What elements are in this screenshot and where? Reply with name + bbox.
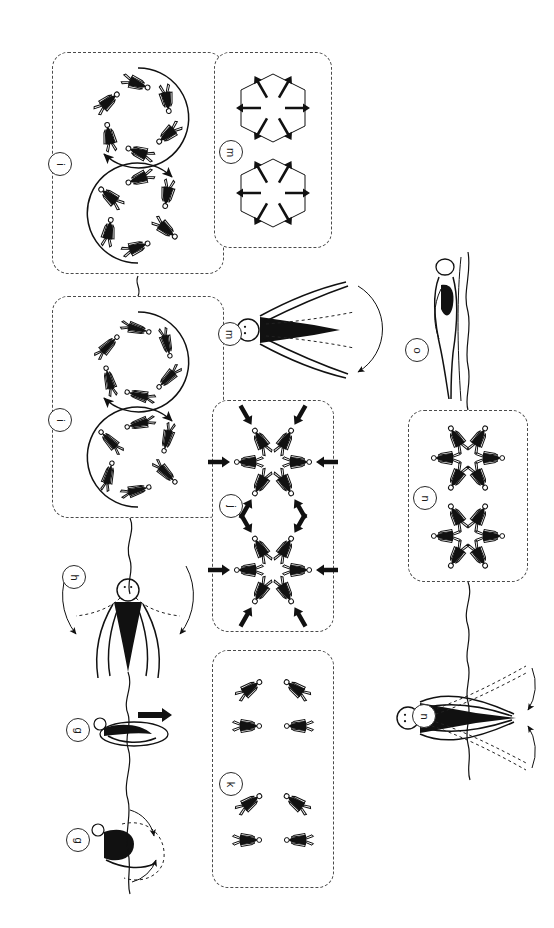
label-panel-j-rosette: j	[219, 494, 243, 518]
label-figure-g-upper: g	[66, 718, 90, 742]
connector-figure-h-to-figure-g	[126, 672, 130, 894]
label-text: m	[224, 329, 235, 338]
connector-i-top-to-i-bottom	[137, 276, 139, 296]
human-figure-m	[237, 282, 382, 378]
label-text: o	[412, 347, 423, 353]
label-text: h	[69, 574, 80, 580]
connector-n-panel-to-figure-n	[466, 582, 470, 780]
connector-o-figure-vertical	[466, 252, 469, 410]
label-figure-h: h	[62, 565, 86, 589]
panel-k-cluster	[212, 650, 334, 888]
panel-i-bottom	[52, 296, 224, 518]
label-text: g	[73, 837, 84, 843]
label-figure-o: o	[405, 338, 429, 362]
label-panel-n-rosette: n	[413, 486, 437, 510]
human-figure-o	[435, 257, 461, 401]
figure-canvas: i m i j n k h g g m o n	[0, 0, 554, 928]
label-text: j	[225, 505, 236, 507]
panel-i-top	[52, 52, 224, 274]
label-text: k	[226, 781, 237, 787]
human-figure-g-upper	[94, 708, 172, 746]
label-text: g	[73, 727, 84, 733]
label-figure-n-arms: n	[412, 704, 436, 728]
label-figure-m-arms: m	[218, 322, 242, 346]
label-panel-i-bottom: i	[48, 408, 72, 432]
label-panel-i-top: i	[48, 152, 72, 176]
label-figure-g-lower: g	[66, 828, 90, 852]
connector-i-bottom-to-figure-h	[128, 518, 131, 594]
label-panel-k-cluster: k	[219, 772, 243, 796]
label-text: n	[419, 713, 430, 719]
human-figure-g-lower	[92, 810, 164, 882]
label-text: i	[54, 163, 65, 165]
label-text: i	[54, 419, 65, 421]
label-panel-m-star: m	[219, 140, 243, 164]
label-text: m	[225, 147, 236, 156]
label-text: n	[420, 495, 431, 501]
